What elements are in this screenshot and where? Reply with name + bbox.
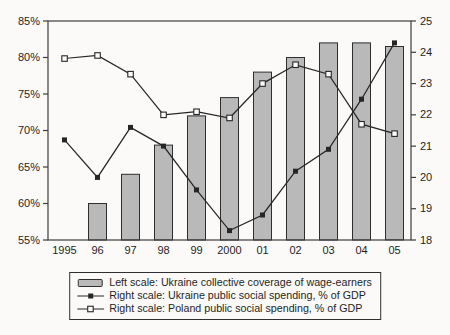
right-axis-label-20: 20 — [420, 171, 432, 183]
poland-spending-marker-04 — [359, 122, 365, 128]
legend: Left scale: Ukraine collective coverage … — [69, 272, 381, 320]
bar-04 — [353, 43, 371, 240]
left-axis-label-60: 60% — [18, 197, 40, 209]
bar-98 — [155, 145, 173, 240]
right-axis-label-21: 21 — [420, 140, 432, 152]
x-axis-label-97: 97 — [124, 244, 136, 256]
left-axis-label-80: 80% — [18, 51, 40, 63]
ukraine-spending-marker-02 — [293, 169, 298, 174]
legend-label-poland-spending: Right scale: Poland public social spendi… — [109, 302, 362, 315]
bar-96 — [89, 204, 107, 241]
legend-item-poland-spending: Right scale: Poland public social spendi… — [77, 302, 372, 315]
poland-spending-marker-96 — [95, 53, 101, 59]
left-axis-label-70: 70% — [18, 124, 40, 136]
ukraine-spending-marker-1995 — [62, 137, 67, 142]
figure: 85%80%75%70%65%60%55%2524232221201918199… — [0, 0, 450, 335]
bar-97 — [122, 174, 140, 240]
chart-plot: 85%80%75%70%65%60%55%2524232221201918199… — [0, 0, 450, 268]
poland-spending-marker-98 — [161, 112, 167, 118]
x-axis-label-03: 03 — [322, 244, 334, 256]
ukraine-spending-marker-99 — [194, 187, 199, 192]
right-axis-label-22: 22 — [420, 108, 432, 120]
bar-02 — [287, 58, 305, 241]
legend-label-coverage: Left scale: Ukraine collective coverage … — [109, 276, 372, 289]
left-axis-label-85: 85% — [18, 15, 40, 27]
poland-spending-marker-97 — [128, 71, 134, 77]
x-axis-label-04: 04 — [355, 244, 367, 256]
poland-spending-marker-03 — [326, 71, 332, 77]
x-axis-label-01: 01 — [256, 244, 268, 256]
bar-05 — [386, 47, 404, 240]
bar-99 — [188, 116, 206, 240]
right-axis-label-24: 24 — [420, 46, 432, 58]
poland-spending-marker-2000 — [227, 115, 233, 121]
x-axis-label-02: 02 — [289, 244, 301, 256]
x-axis-label-96: 96 — [91, 244, 103, 256]
filled-square-line-icon — [77, 291, 104, 301]
left-axis-label-65: 65% — [18, 161, 40, 173]
x-axis-label-2000: 2000 — [217, 244, 241, 256]
poland-spending-marker-01 — [260, 81, 266, 87]
open-square-line-icon — [77, 304, 104, 314]
legend-item-coverage: Left scale: Ukraine collective coverage … — [77, 276, 372, 289]
poland-spending-marker-1995 — [62, 56, 68, 62]
left-axis-label-75: 75% — [18, 88, 40, 100]
right-axis-label-18: 18 — [420, 234, 432, 246]
poland-spending-marker-05 — [392, 131, 398, 137]
ukraine-spending-marker-05 — [392, 40, 397, 45]
ukraine-spending-marker-03 — [326, 147, 331, 152]
ukraine-spending-marker-98 — [161, 144, 166, 149]
right-axis-label-25: 25 — [420, 15, 432, 27]
right-axis-label-23: 23 — [420, 77, 432, 89]
x-axis-label-1995: 1995 — [52, 244, 76, 256]
legend-label-ukraine-spending: Right scale: Ukraine public social spend… — [109, 289, 366, 302]
ukraine-spending-marker-01 — [260, 213, 265, 218]
x-axis-label-98: 98 — [157, 244, 169, 256]
bar-swatch-icon — [77, 278, 104, 288]
ukraine-spending-marker-2000 — [227, 228, 232, 233]
x-axis-label-99: 99 — [190, 244, 202, 256]
poland-spending-marker-99 — [194, 109, 200, 115]
ukraine-spending-marker-04 — [359, 97, 364, 102]
x-axis-label-05: 05 — [388, 244, 400, 256]
legend-item-ukraine-spending: Right scale: Ukraine public social spend… — [77, 289, 372, 302]
ukraine-spending-marker-97 — [128, 125, 133, 130]
ukraine-spending-marker-96 — [95, 175, 100, 180]
right-axis-label-19: 19 — [420, 202, 432, 214]
poland-spending-marker-02 — [293, 62, 299, 68]
left-axis-label-55: 55% — [18, 234, 40, 246]
